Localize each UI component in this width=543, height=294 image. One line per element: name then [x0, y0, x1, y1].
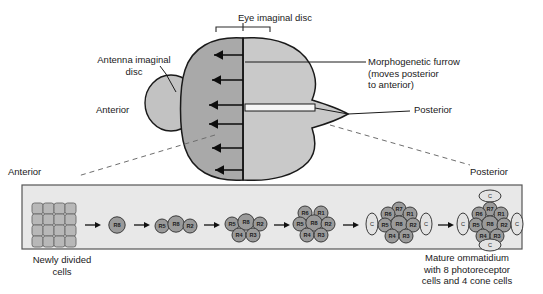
- mature-ommatidium-caption: Mature ommatidium with 8 photoreceptor c…: [394, 252, 540, 287]
- cell-label-r8: R8: [395, 221, 402, 227]
- cell-label-r4: R4: [235, 232, 243, 238]
- photoreceptor-r1: [314, 206, 328, 220]
- stage-five-cell: R5 R8 R2 R4 R3: [225, 214, 267, 242]
- photoreceptor-r6: [472, 207, 486, 221]
- eye-imaginal-disc-diagram: [0, 0, 543, 200]
- cell-label-r6: R6: [384, 211, 391, 217]
- morphogenetic-furrow-label: Morphogenetic furrow (moves posterior to…: [368, 56, 538, 91]
- stage-arrow-2: [134, 222, 150, 228]
- photoreceptor-r4: [476, 229, 490, 243]
- photoreceptor-r1: [494, 207, 508, 221]
- photoreceptor-r4: [385, 229, 399, 243]
- photoreceptor-r3: [399, 229, 413, 243]
- stage-r5-r8-r2: R5 R8 R2: [155, 216, 197, 233]
- cell-label-r2: R2: [186, 223, 193, 229]
- cell-label-r3: R3: [402, 233, 409, 239]
- cell-label-r1: R1: [406, 211, 413, 217]
- photoreceptor-r1: [403, 207, 417, 221]
- cell-label-cone: C: [370, 221, 374, 227]
- eye-disc-bracket: [216, 27, 270, 32]
- cell-label-cone: C: [515, 221, 519, 227]
- photoreceptor-r3: [490, 229, 504, 243]
- stage-arrow-1: [85, 222, 101, 228]
- stage-newly-divided-cells: [32, 203, 76, 247]
- photoreceptor-r5: [293, 217, 307, 231]
- cell-label-r2: R2: [324, 221, 331, 227]
- cell-label-r2: R2: [500, 222, 507, 228]
- photoreceptor-r8: [482, 216, 498, 232]
- cone-cell-left: [457, 213, 469, 235]
- cell-label-r2: R2: [256, 221, 263, 227]
- photoreceptor-r6: [298, 206, 312, 220]
- cell-label-r3: R3: [317, 232, 324, 238]
- photoreceptor-r8: [238, 214, 254, 230]
- cell-label-r7: R7: [395, 206, 402, 212]
- cell-label-r6: R6: [301, 210, 308, 216]
- eye-disc-figure: Eye imaginal disc Antenna imaginal disc …: [0, 0, 543, 294]
- photoreceptor-r8: [306, 215, 322, 231]
- anterior-lobe: [181, 38, 244, 180]
- cell-label-r1: R1: [497, 211, 504, 217]
- photoreceptor-r2: [253, 217, 267, 231]
- cell-label-cone: C: [488, 242, 492, 248]
- cell-label-r5: R5: [381, 222, 388, 228]
- cell-label-r1: R1: [317, 210, 324, 216]
- cell-label-r5: R5: [228, 221, 235, 227]
- photoreceptor-r8: [391, 216, 407, 232]
- posterior-label-upper: Posterior: [414, 104, 452, 116]
- anterior-label-upper: Anterior: [96, 104, 129, 116]
- photoreceptor-r6: [381, 207, 395, 221]
- photoreceptor-r8: [109, 217, 125, 233]
- cell-label-r5: R5: [158, 223, 165, 229]
- cell-label-r8: R8: [310, 220, 317, 226]
- expansion-guide-right: [330, 125, 470, 165]
- cone-cell-bottom: [479, 239, 501, 251]
- cell-label-r5: R5: [296, 221, 303, 227]
- stage-arrow-6: [438, 222, 454, 228]
- photoreceptor-r5: [469, 218, 483, 232]
- furrow-region-callout: [245, 104, 315, 111]
- photoreceptor-r2: [321, 217, 335, 231]
- cell-label-cone: C: [461, 221, 465, 227]
- stage-r8: R8: [109, 217, 125, 233]
- posterior-corner-label: Posterior: [470, 166, 508, 178]
- photoreceptor-r5: [155, 219, 169, 233]
- photoreceptor-r2: [497, 218, 511, 232]
- cell-label-r6: R6: [475, 211, 482, 217]
- stage-arrow-3: [204, 222, 220, 228]
- cell-label-r8: R8: [113, 222, 120, 228]
- anterior-corner-label: Anterior: [8, 166, 41, 178]
- cell-label-r5: R5: [472, 222, 479, 228]
- cell-label-r8: R8: [486, 221, 493, 227]
- photoreceptor-r2: [406, 218, 420, 232]
- photoreceptor-r7: [483, 202, 497, 216]
- cell-label-r4: R4: [303, 232, 311, 238]
- stage-eight-cell-two-cone: C R7 R6 R1 R5 R8 R2 R4 R3 C: [366, 202, 432, 243]
- cell-label-r4: R4: [479, 233, 487, 239]
- photoreceptor-r2: [183, 219, 197, 233]
- cell-label-r4: R4: [388, 233, 396, 239]
- photoreceptor-r3: [246, 228, 260, 242]
- cone-cell-right: [420, 213, 432, 235]
- photoreceptor-r4: [300, 228, 314, 242]
- photoreceptor-r4: [232, 228, 246, 242]
- cell-label-cone: C: [424, 221, 428, 227]
- cell-label-r8: R8: [242, 219, 249, 225]
- stage-arrow-4: [274, 222, 290, 228]
- stage-arrow-5: [343, 222, 359, 228]
- photoreceptor-r3: [314, 228, 328, 242]
- cell-label-r2: R2: [409, 222, 416, 228]
- cell-label-r3: R3: [249, 232, 256, 238]
- photoreceptor-r5: [225, 217, 239, 231]
- newly-divided-cells-caption: Newly divided cells: [14, 254, 110, 277]
- photoreceptor-r5: [378, 218, 392, 232]
- photoreceptor-r7: [392, 202, 406, 216]
- antenna-imaginal-disc-label: Antenna imaginal disc: [82, 54, 186, 77]
- stage-seven-cell: R6 R1 R5 R8 R2 R4 R3: [293, 206, 335, 242]
- cone-cell-left: [366, 213, 378, 235]
- eye-imaginal-disc-title: Eye imaginal disc: [200, 12, 350, 24]
- cell-label-r3: R3: [493, 233, 500, 239]
- cell-label-r7: R7: [486, 206, 493, 212]
- cone-cell-right: [511, 213, 523, 235]
- cell-label-r8: R8: [172, 221, 179, 227]
